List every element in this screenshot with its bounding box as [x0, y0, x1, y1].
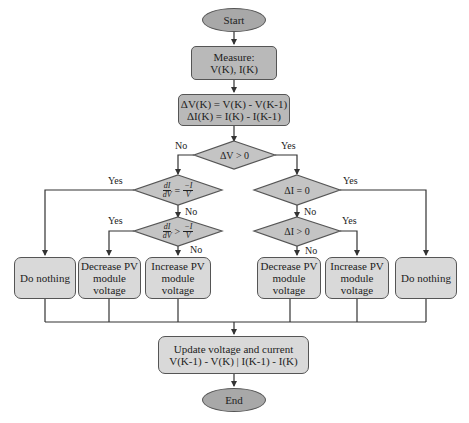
end-terminal: End — [202, 388, 266, 412]
measure-step: Measure: V(K), I(K) — [191, 46, 277, 80]
fraction-di-dv: dI dV — [163, 223, 172, 240]
edge-label-left1-yes: Yes — [108, 175, 123, 186]
decision-didv-eq-neg-i-v: dI dV = −I V — [134, 175, 222, 205]
update-step: Update voltage and current V(K-1) - V(K)… — [158, 336, 309, 374]
delta-computation-step: ΔV(K) = V(K) - V(K-1) ΔI(K) = I(K) - I(K… — [178, 94, 290, 126]
decision-dv-gt-0: ΔV > 0 — [194, 141, 275, 169]
edge-label-dv-yes: Yes — [281, 140, 296, 151]
decision-di-eq-0: ΔI = 0 — [254, 175, 340, 205]
edge-label-left1-no: No — [185, 206, 197, 217]
increase-voltage-left: Increase PV module voltage — [145, 257, 211, 299]
decrease-voltage-left: Decrease PV module voltage — [78, 257, 141, 299]
start-terminal: Start — [202, 8, 266, 32]
edge-label-right2-yes: Yes — [342, 215, 357, 226]
fraction-neg-i-v: −I V — [183, 223, 193, 240]
fraction-di-dv: dI dV — [163, 182, 172, 199]
fraction-neg-i-v: −I V — [183, 182, 193, 199]
flowchart: Start Measure: V(K), I(K) ΔV(K) = V(K) -… — [0, 0, 469, 423]
edge-label-left2-yes: Yes — [108, 215, 123, 226]
edge-label-left2-no: No — [190, 244, 202, 255]
edge-label-right2-no: No — [305, 245, 317, 256]
do-nothing-right: Do nothing — [395, 257, 457, 299]
edge-label-dv-no: No — [175, 140, 187, 151]
increase-voltage-right: Increase PV module voltage — [325, 257, 389, 299]
edge-label-right1-no: No — [304, 206, 316, 217]
decrease-voltage-right: Decrease PV module voltage — [257, 257, 321, 299]
decision-didv-gt-neg-i-v: dI dV > −I V — [134, 217, 222, 246]
do-nothing-left: Do nothing — [14, 257, 76, 299]
decision-di-gt-0: ΔI > 0 — [254, 217, 340, 246]
edge-label-right1-yes: Yes — [343, 175, 358, 186]
